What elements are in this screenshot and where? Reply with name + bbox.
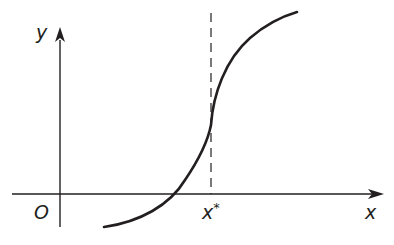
x-star-label: x* [201,200,220,223]
y-axis-label: y [35,21,48,43]
x-star-superscript: * [213,200,220,215]
origin-label: O [34,201,49,223]
y-axis-arrow-icon [55,27,65,42]
function-curve [104,12,297,227]
x-axis-label: x [364,201,377,223]
x-star-base: x [201,201,214,223]
diagram-canvas: y O x* x [0,0,394,245]
